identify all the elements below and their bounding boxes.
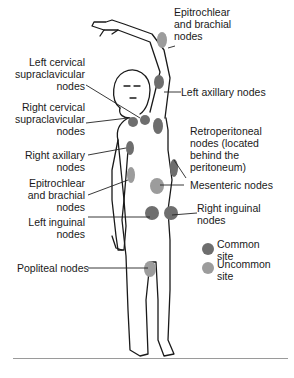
legend-common-dot <box>202 243 214 255</box>
label-popliteal: Popliteal nodes <box>17 262 89 274</box>
label-left-inguinal: Left inguinal nodes <box>28 216 85 240</box>
uncommon-site-nodes <box>127 32 167 277</box>
legend-uncommon-dot <box>202 262 214 274</box>
label-legend-uncommon: Uncommon site <box>217 258 271 282</box>
label-left-axillary: Left axillary nodes <box>181 86 266 98</box>
label-retroperitoneal: Retroperitoneal nodes (located behind th… <box>190 125 262 173</box>
label-right-cervical-supraclavicular: Right cervical supraclavicular nodes <box>15 101 85 137</box>
bottom-divider <box>13 358 288 359</box>
label-right-axillary: Right axillary nodes <box>25 149 85 173</box>
leader-lines <box>86 46 197 268</box>
label-epitrochlear-brachial-upper: Epitrochlear and brachial nodes <box>174 6 231 42</box>
label-mesenteric: Mesenteric nodes <box>190 179 273 191</box>
label-left-cervical-supraclavicular: Left cervical supraclavicular nodes <box>15 56 85 92</box>
torso-outline <box>117 118 174 356</box>
label-epitrochlear-brachial-lower: Epitrochlear and brachial nodes <box>28 177 85 213</box>
label-right-inguinal: Right inguinal nodes <box>197 202 261 226</box>
head-outline <box>114 70 150 114</box>
